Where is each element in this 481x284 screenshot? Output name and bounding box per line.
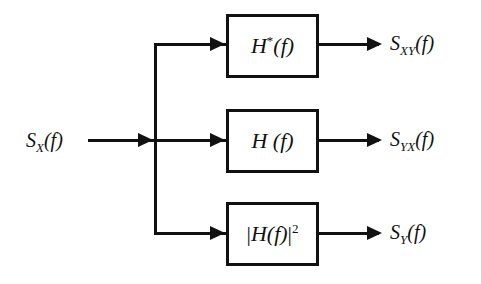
input-arrowhead-icon (138, 133, 153, 147)
block-filter-label: H (f) (251, 129, 293, 152)
block-2-argument: (f) (267, 129, 293, 154)
block-3-base: H (251, 222, 267, 247)
block-1-argument: (f) (273, 34, 294, 59)
branch-arrowhead-top-icon (210, 37, 225, 51)
block-conjugate-filter[interactable]: H*(f) (226, 14, 319, 78)
input-signal-subscript: X (36, 140, 44, 155)
block-diagram: SX(f) H*(f) SXY(f) H (f) SYX(f) |H(f)|2 … (0, 0, 481, 284)
output-3-argument: (f) (407, 221, 426, 243)
block-magnitude-squared-filter-label: |H(f)|2 (247, 222, 299, 245)
block-filter[interactable]: H (f) (226, 109, 319, 173)
input-signal-argument: (f) (44, 129, 63, 151)
output-2-subscript: YX (400, 139, 415, 154)
output-arrowhead-middle-icon (367, 133, 382, 147)
output-signal-label-xy: SXY(f) (390, 33, 434, 57)
output-arrowhead-bottom-icon (367, 226, 382, 240)
block-conjugate-filter-label: H*(f) (251, 34, 294, 57)
output-signal-label-yx: SYX(f) (390, 129, 434, 153)
output-2-base: S (390, 128, 400, 150)
block-3-superscript: 2 (292, 221, 299, 236)
output-1-subscript: XY (400, 43, 415, 58)
output-3-base: S (390, 221, 400, 243)
block-2-base: H (251, 129, 267, 154)
block-magnitude-squared-filter[interactable]: |H(f)|2 (226, 202, 319, 266)
branch-arrowhead-bottom-icon (210, 226, 225, 240)
input-signal-label: SX(f) (26, 130, 63, 154)
output-signal-label-y: SY(f) (390, 222, 426, 246)
output-arrowhead-top-icon (367, 37, 382, 51)
block-3-argument: (f) (267, 222, 288, 247)
block-1-base: H (251, 34, 267, 59)
branch-arrowhead-middle-icon (210, 133, 225, 147)
output-1-argument: (f) (415, 32, 434, 54)
output-1-base: S (390, 32, 400, 54)
input-signal-base: S (26, 129, 36, 151)
output-2-argument: (f) (415, 128, 434, 150)
